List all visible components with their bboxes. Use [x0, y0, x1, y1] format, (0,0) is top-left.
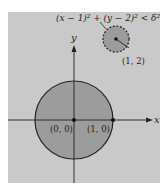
origin-label: (0, 0) [50, 124, 73, 134]
origin-point [72, 118, 76, 122]
delta-center-label: (1, 2) [122, 56, 145, 66]
delta-center-point [114, 37, 118, 41]
x-axis-label: x [154, 114, 160, 125]
figure: x y (0, 0) (1, 0) (1, 2) (x − 1)² + (y −… [0, 0, 168, 191]
y-axis-label: y [70, 32, 77, 43]
inequality-label: (x − 1)² + (y − 2)² < δ² [56, 13, 161, 23]
disk-diagram: x y (0, 0) (1, 0) (1, 2) (x − 1)² + (y −… [0, 0, 168, 191]
edge-point [111, 118, 115, 122]
edge-point-label: (1, 0) [87, 124, 110, 134]
